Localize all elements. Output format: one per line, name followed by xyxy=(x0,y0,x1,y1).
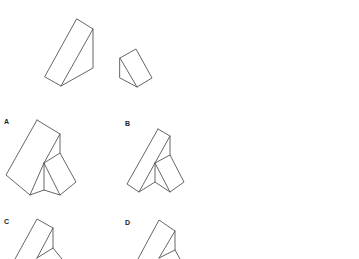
option-a-figure[interactable] xyxy=(6,120,76,195)
large-prism-figure xyxy=(45,19,93,86)
puzzle-diagram: A B C D xyxy=(0,0,359,259)
option-b-label: B xyxy=(125,120,130,127)
figures xyxy=(0,0,359,259)
option-a-label: A xyxy=(4,118,9,125)
option-c-figure[interactable] xyxy=(15,219,62,259)
option-d-figure[interactable] xyxy=(138,220,180,259)
option-d-label: D xyxy=(125,219,130,226)
option-b-figure[interactable] xyxy=(127,129,184,192)
small-prism-figure xyxy=(120,49,152,87)
option-c-label: C xyxy=(4,218,9,225)
